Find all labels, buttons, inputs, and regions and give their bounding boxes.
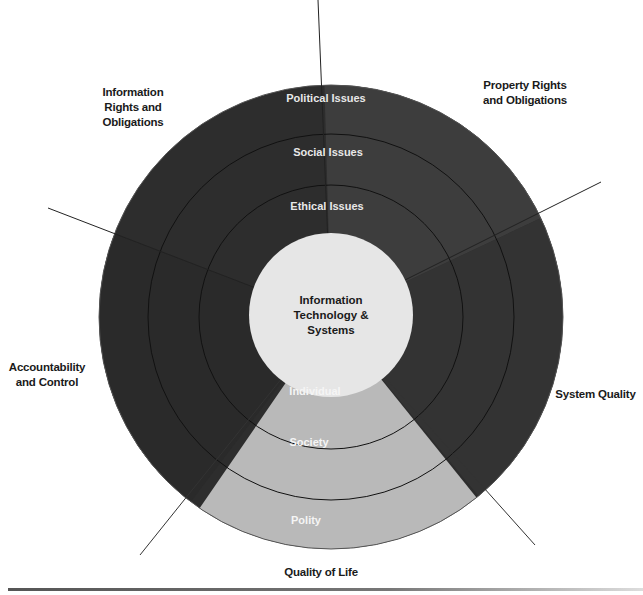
label-line: System Quality bbox=[548, 387, 643, 402]
center-line-3: Systems bbox=[271, 323, 391, 338]
label-information-rights: Information Rights and Obligations bbox=[88, 85, 178, 130]
ring-label-individual: Individual bbox=[289, 385, 340, 397]
label-line: and Control bbox=[2, 375, 92, 390]
center-line-1: Information bbox=[271, 293, 391, 308]
center-line-2: Technology & bbox=[271, 308, 391, 323]
label-line: Quality of Life bbox=[266, 565, 376, 580]
label-property-rights: Property Rights and Obligations bbox=[470, 78, 580, 108]
label-accountability: Accountability and Control bbox=[2, 360, 92, 390]
ring-label-social: Social Issues bbox=[293, 146, 363, 158]
label-quality-of-life: Quality of Life bbox=[266, 565, 376, 580]
center-label: Information Technology & Systems bbox=[271, 293, 391, 338]
label-line: Rights and bbox=[88, 100, 178, 115]
ring-label-society: Society bbox=[289, 436, 328, 448]
label-line: and Obligations bbox=[470, 93, 580, 108]
ring-label-polity: Polity bbox=[291, 514, 321, 526]
label-line: Accountability bbox=[2, 360, 92, 375]
label-line: Property Rights bbox=[470, 78, 580, 93]
label-system-quality: System Quality bbox=[548, 387, 643, 402]
label-line: Obligations bbox=[88, 115, 178, 130]
label-line: Information bbox=[88, 85, 178, 100]
bottom-rule bbox=[8, 588, 643, 591]
ring-label-political: Political Issues bbox=[286, 92, 365, 104]
ring-label-ethical: Ethical Issues bbox=[290, 200, 363, 212]
